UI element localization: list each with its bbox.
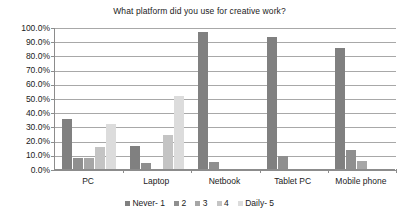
- legend-swatch-icon: [217, 201, 222, 206]
- y-axis-tick-label: 30.0%: [4, 123, 50, 132]
- legend-swatch-icon: [174, 201, 179, 206]
- legend-label: 3: [203, 198, 208, 208]
- bar: [357, 161, 367, 169]
- gridline: [55, 170, 396, 171]
- bar: [106, 124, 116, 169]
- bar: [73, 158, 83, 169]
- legend-item: 4: [217, 198, 229, 208]
- legend-label: Never- 1: [132, 198, 165, 208]
- bar: [84, 158, 94, 169]
- legend-item: Daily- 5: [238, 198, 274, 208]
- y-axis-tick-label: 0.0%: [4, 166, 50, 175]
- legend-label: 2: [182, 198, 187, 208]
- y-axis-tick-label: 70.0%: [4, 66, 50, 75]
- y-axis-tick-label: 100.0%: [4, 24, 50, 33]
- x-axis-category-label: Tablet PC: [259, 176, 327, 187]
- bar: [267, 37, 277, 169]
- bar-group: [191, 27, 259, 169]
- x-axis-category-label: Laptop: [122, 176, 190, 187]
- bar: [62, 119, 72, 169]
- bar-group: [55, 27, 123, 169]
- legend-swatch-icon: [238, 201, 243, 206]
- legend-label: 4: [224, 198, 229, 208]
- bar: [198, 32, 208, 169]
- bar: [95, 147, 105, 169]
- y-axis-tick-label: 50.0%: [4, 95, 50, 104]
- y-axis-tick: [51, 170, 55, 171]
- legend-swatch-icon: [125, 201, 130, 206]
- x-axis-tick: [396, 169, 397, 173]
- x-axis-tick: [328, 169, 329, 173]
- legend-item: Never- 1: [125, 198, 165, 208]
- x-axis-tick: [260, 169, 261, 173]
- legend-item: 2: [174, 198, 186, 208]
- x-axis-labels: PCLaptopNetbookTablet PCMobile phone: [54, 176, 395, 190]
- x-axis-tick: [191, 169, 192, 173]
- chart-legend: Never- 1234Daily- 5: [0, 198, 399, 208]
- legend-label: Daily- 5: [245, 198, 274, 208]
- bar: [335, 48, 345, 169]
- x-axis-category-label: Netbook: [190, 176, 258, 187]
- bar: [174, 96, 184, 169]
- bar: [278, 156, 288, 169]
- bar: [163, 135, 173, 169]
- bar: [209, 162, 219, 169]
- x-axis-category-label: PC: [54, 176, 122, 187]
- bar-group: [123, 27, 191, 169]
- y-axis-tick-label: 60.0%: [4, 80, 50, 89]
- x-axis-category-label: Mobile phone: [327, 176, 395, 187]
- y-axis-tick-label: 90.0%: [4, 38, 50, 47]
- x-axis-tick: [123, 169, 124, 173]
- chart-container: What platform did you use for creative w…: [0, 0, 399, 218]
- chart-title: What platform did you use for creative w…: [0, 6, 399, 17]
- y-axis-tick-label: 80.0%: [4, 52, 50, 61]
- y-axis-tick-label: 10.0%: [4, 151, 50, 160]
- y-axis-labels: 100.0%90.0%80.0%70.0%60.0%50.0%40.0%30.0…: [0, 28, 50, 170]
- bar-group: [260, 27, 328, 169]
- legend-item: 3: [195, 198, 207, 208]
- y-axis-tick-label: 40.0%: [4, 109, 50, 118]
- bar: [346, 150, 356, 169]
- plot-area: [54, 28, 395, 170]
- y-axis-tick-label: 20.0%: [4, 137, 50, 146]
- bar: [141, 163, 151, 169]
- legend-swatch-icon: [195, 201, 200, 206]
- bar-group: [328, 27, 396, 169]
- bar: [130, 146, 140, 169]
